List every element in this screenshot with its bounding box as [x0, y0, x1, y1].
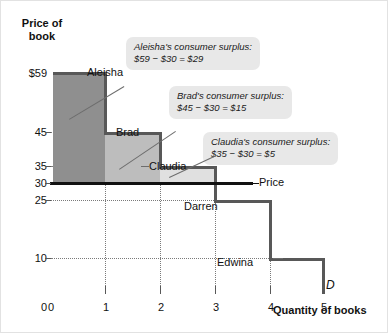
- y-axis-title: Price of book: [3, 17, 81, 43]
- surplus-area-brad: [105, 132, 160, 183]
- callout-aleisha-line1: Aleisha's consumer surplus:: [134, 41, 252, 53]
- demand-curve-label: D: [326, 278, 335, 292]
- price-line: [50, 182, 253, 185]
- x-tick-mark-4: [270, 286, 271, 294]
- connector-claudia: [141, 166, 149, 167]
- callout-claudia-line1: Claudia's consumer surplus:: [211, 136, 330, 148]
- callout-claudia-line2: $35 − $30 = $5: [211, 148, 330, 160]
- price-line-label: Price: [259, 176, 284, 188]
- callout-claudia: Claudia's consumer surplus: $35 − $30 = …: [203, 132, 338, 165]
- callout-aleisha-line2: $59 − $30 = $29: [134, 53, 252, 65]
- x-tick-mark-2: [160, 286, 161, 294]
- callout-brad: Brad's consumer surplus: $45 − $30 = $15: [169, 86, 292, 119]
- y-axis-title-line2: book: [3, 30, 81, 43]
- consumer-surplus-chart: Price of book Quantity of books Price Al…: [0, 0, 388, 333]
- y-tick-mark-35: [45, 166, 51, 167]
- y-axis-title-line1: Price of: [3, 17, 81, 30]
- callout-aleisha: Aleisha's consumer surplus: $59 − $30 = …: [126, 37, 260, 70]
- label-aleisha: Aleisha: [87, 66, 123, 78]
- y-tick-label-10: 10: [3, 252, 47, 264]
- connector-price: [253, 183, 259, 184]
- x-tick-label-5: 5: [314, 301, 334, 313]
- x-tick-mark-3: [215, 286, 216, 294]
- y-tick-label-59: $59: [3, 67, 47, 79]
- x-tick-label-0: 0: [41, 301, 61, 313]
- demand-step-top-darren: [214, 200, 272, 203]
- x-tick-label-3: 3: [206, 301, 226, 313]
- demand-drop-edwina-axis: [322, 258, 325, 294]
- y-tick-label-25: 25: [3, 194, 47, 206]
- demand-drop-aleisha-brad: [104, 72, 107, 135]
- x-tick-label-2: 2: [151, 301, 171, 313]
- y-tick-mark-45: [45, 132, 51, 133]
- y-tick-mark-25: [45, 200, 51, 201]
- callout-brad-line2: $45 − $30 = $15: [177, 102, 284, 114]
- callout-brad-line1: Brad's consumer surplus:: [177, 90, 284, 102]
- label-darren: Darren: [184, 200, 218, 212]
- y-tick-label-35: 35: [3, 160, 47, 172]
- y-tick-label-45: 45: [3, 126, 47, 138]
- demand-drop-darren-edwina: [269, 200, 272, 261]
- y-tick-mark-10: [45, 258, 51, 259]
- label-brad: Brad: [116, 126, 139, 138]
- x-tick-mark-1: [105, 286, 106, 294]
- label-edwina: Edwina: [217, 256, 253, 268]
- connector-edwina: [273, 258, 283, 259]
- y-tick-label-30: 30: [3, 177, 47, 189]
- x-tick-label-1: 1: [96, 301, 116, 313]
- y-tick-mark-30: [45, 183, 51, 184]
- x-tick-label-4: 4: [261, 301, 281, 313]
- surplus-area-aleisha: [53, 73, 105, 183]
